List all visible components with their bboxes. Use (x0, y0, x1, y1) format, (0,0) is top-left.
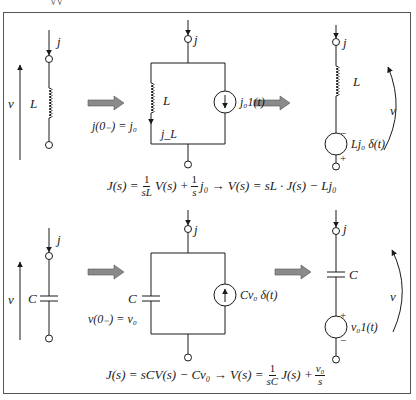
current-label: j (57, 35, 61, 48)
voltage-label: v (390, 290, 396, 303)
capacitor-label: C (128, 292, 137, 305)
current-label: j (343, 222, 347, 235)
source-label: Lj₀ δ(t) (351, 138, 385, 150)
plus-sign: + (340, 153, 346, 164)
circuit-diagram (0, 0, 416, 400)
capacitor-series-model (325, 210, 402, 363)
minus-sign: − (340, 335, 346, 346)
current-label: j (343, 36, 347, 49)
terminal-bottom (46, 142, 53, 149)
inductor-coil-icon (336, 66, 339, 96)
transform-arrow-icon (88, 265, 124, 279)
current-label: j (194, 33, 198, 46)
transform-arrow-icon (275, 265, 311, 279)
terminal-top (46, 56, 53, 63)
initial-condition: j(0₋) = j₀ (92, 120, 137, 132)
current-label: j (57, 233, 61, 246)
minus-sign: − (340, 128, 346, 139)
transform-arrow-icon (88, 96, 124, 110)
inductor-equation: J(s) = 1sL V(s) + 1s j₀ → V(s) = sL · J(… (107, 174, 337, 198)
source-label: v₀1(t) (351, 321, 378, 333)
current-label: j (194, 223, 198, 236)
inductor-coil-icon (151, 83, 154, 113)
source-label: Cv₀ δ(t) (240, 289, 277, 301)
inductor-label: L (353, 75, 360, 88)
inductor-coil-icon (49, 88, 52, 118)
inductor-label: L (163, 94, 170, 107)
capacitor-label: C (28, 292, 37, 305)
inductor-label: L (30, 97, 37, 110)
voltage-label: v (8, 97, 14, 110)
capacitor-equation: J(s) = sCV(s) − Cv₀ → V(s) = 1sC J(s) + … (106, 363, 327, 387)
voltage-label: v (8, 293, 14, 306)
initial-condition: v(0₋) = v₀ (88, 313, 137, 325)
capacitor-parallel-model (142, 210, 236, 361)
original-inductor-circuit (20, 30, 53, 160)
source-label: j₀1(t) (240, 96, 265, 108)
capacitor-label: C (349, 268, 358, 281)
branch-current-label: j_L (161, 128, 177, 140)
plus-sign: + (340, 310, 346, 321)
original-capacitor-circuit (20, 228, 58, 342)
voltage-label: v (390, 104, 396, 117)
